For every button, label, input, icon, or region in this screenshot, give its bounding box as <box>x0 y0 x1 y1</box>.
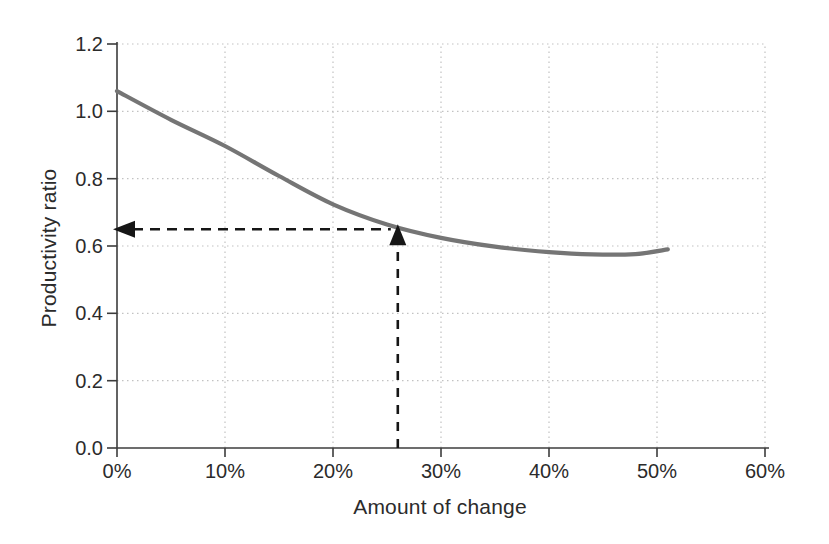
y-tick-label: 1.2 <box>75 33 103 55</box>
y-tick-label: 0.4 <box>75 302 103 324</box>
x-tick-label: 40% <box>529 460 569 482</box>
x-tick-label: 10% <box>205 460 245 482</box>
x-axis-title: Amount of change <box>353 495 527 519</box>
productivity-ratio-curve <box>117 91 668 255</box>
x-tick-label: 30% <box>421 460 461 482</box>
y-tick-label: 0.8 <box>75 168 103 190</box>
y-tick-label: 0.2 <box>75 370 103 392</box>
x-tick-label: 0% <box>103 460 132 482</box>
x-tick-label: 50% <box>637 460 677 482</box>
y-tick-label: 0.6 <box>75 235 103 257</box>
y-tick-label: 1.0 <box>75 100 103 122</box>
y-tick-label: 0.0 <box>75 437 103 459</box>
x-tick-label: 60% <box>745 460 785 482</box>
y-axis-title: Productivity ratio <box>37 169 61 328</box>
x-tick-label: 20% <box>313 460 353 482</box>
productivity-chart-figure: 0.00.20.40.60.81.01.20%10%20%30%40%50%60… <box>0 0 829 544</box>
chart-canvas: 0.00.20.40.60.81.01.20%10%20%30%40%50%60… <box>0 0 829 544</box>
